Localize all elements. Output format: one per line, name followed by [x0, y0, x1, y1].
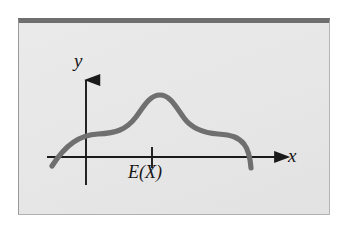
figure-root: y x E(X) — [0, 0, 348, 233]
plot-canvas — [18, 18, 330, 215]
x-axis-label: x — [288, 146, 296, 165]
expected-value-label: E(X) — [128, 163, 162, 181]
y-axis-label: y — [74, 51, 82, 70]
